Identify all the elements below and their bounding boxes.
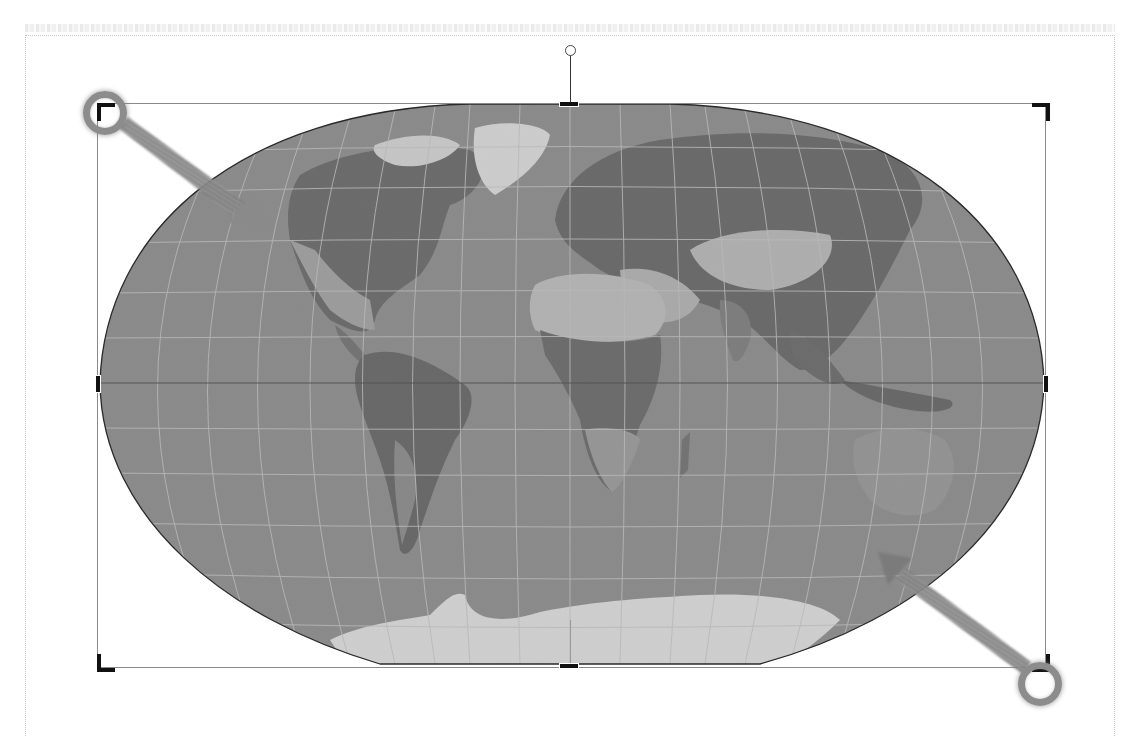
- rotate-handle-stem: [570, 55, 571, 102]
- callout-ring-top-left: [83, 91, 127, 135]
- rotate-handle[interactable]: [565, 45, 576, 56]
- crop-handle-right[interactable]: [1043, 375, 1049, 393]
- crop-handle-bottom-left[interactable]: [97, 654, 115, 672]
- crop-handle-top[interactable]: [559, 101, 579, 107]
- crop-handle-bottom[interactable]: [559, 663, 579, 669]
- image-crop-frame[interactable]: [97, 103, 1046, 668]
- center-guide-line: [570, 620, 571, 664]
- crop-handle-top-right[interactable]: [1032, 103, 1050, 121]
- callout-ring-bottom-right: [1018, 662, 1062, 706]
- crop-handle-left[interactable]: [95, 375, 101, 393]
